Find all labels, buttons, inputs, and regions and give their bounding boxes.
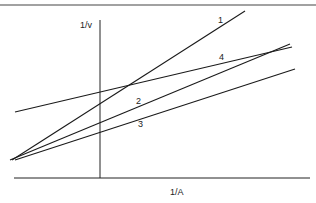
plot-line-4 (15, 47, 292, 112)
y-axis-label: 1/v (80, 20, 93, 30)
plot-line-2 (10, 44, 290, 160)
line-label-2: 2 (136, 96, 141, 106)
line-label-1: 1 (218, 15, 223, 25)
line-label-4: 4 (219, 52, 224, 62)
line-label-3: 3 (138, 119, 143, 129)
plot-lines: 1234 (10, 11, 295, 160)
x-axis-label: 1/A (170, 187, 184, 197)
diagram-canvas: 1/v 1/A 1234 (0, 0, 316, 203)
plot-line-3 (15, 69, 295, 160)
